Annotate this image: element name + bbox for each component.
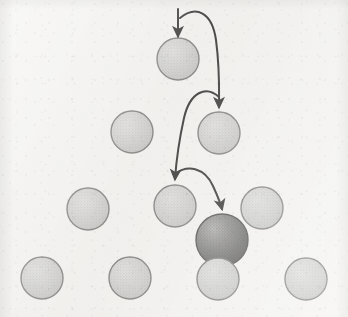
node-row4-4[interactable] [285,258,327,300]
node-row2-2-texture [199,113,240,154]
node-row3-1-texture [68,189,109,230]
node-row4-1-texture [22,258,63,299]
node-row3-2-texture [155,186,196,227]
node-row3-1[interactable] [67,188,109,230]
node-row4-2-texture [110,258,151,299]
node-row4-4-texture [286,259,327,300]
diagram-canvas [0,0,348,317]
node-row2-1[interactable] [111,111,153,153]
node-arrow-diagram [0,0,348,317]
node-row1-1-texture [158,39,199,80]
node-row2-1-texture [112,112,153,153]
node-row2-2[interactable] [198,112,240,154]
node-row3-2[interactable] [154,185,196,227]
node-row4-3-texture [198,259,239,300]
node-row4-1[interactable] [21,257,63,299]
node-row3-3[interactable] [241,187,283,229]
node-row4-3[interactable] [197,258,239,300]
nodes-layer [21,38,327,300]
node-row1-1[interactable] [157,38,199,80]
node-row3-3-texture [242,188,283,229]
node-row4-2[interactable] [109,257,151,299]
